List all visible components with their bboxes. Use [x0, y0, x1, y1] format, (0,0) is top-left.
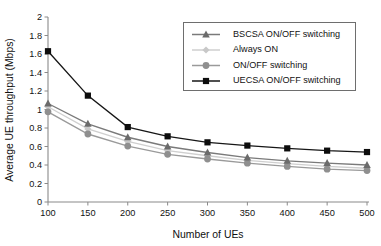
data-point-circle: [203, 62, 210, 69]
data-point-square: [364, 149, 370, 155]
data-point-circle: [284, 163, 291, 170]
data-point-square: [125, 124, 131, 130]
x-tick-label: 350: [240, 208, 255, 218]
x-tick-label: 500: [359, 208, 374, 218]
y-tick-label: 0.4: [29, 160, 42, 170]
legend-label: BSCSA ON/OFF switching: [233, 29, 340, 39]
y-tick-label: 1.6: [29, 49, 42, 59]
data-point-square: [165, 133, 171, 139]
data-point-square: [45, 48, 51, 54]
x-tick-label: 400: [280, 208, 295, 218]
y-tick-label: 1.2: [29, 86, 42, 96]
y-tick-label: 1.8: [29, 31, 42, 41]
data-point-square: [85, 93, 91, 99]
data-point-circle: [45, 108, 52, 115]
y-tick-label: 2: [37, 12, 42, 22]
chart-legend[interactable]: BSCSA ON/OFF switchingAlways ONON/OFF sw…: [184, 23, 356, 91]
y-tick-label: 0.8: [29, 123, 42, 133]
x-axis-title: Number of UEs: [172, 229, 243, 240]
data-point-circle: [164, 151, 171, 158]
data-point-circle: [364, 167, 371, 174]
legend-label: ON/OFF switching: [233, 60, 307, 70]
data-point-square: [204, 139, 210, 145]
data-point-circle: [324, 166, 331, 173]
y-tick-label: 1: [37, 105, 42, 115]
x-tick-label: 300: [200, 208, 215, 218]
data-point-square: [284, 145, 290, 151]
data-point-circle: [244, 160, 251, 167]
x-tick-label: 450: [319, 208, 334, 218]
legend-label: UECSA ON/OFF switching: [233, 75, 341, 85]
y-tick-label: 0.2: [29, 179, 42, 189]
data-point-circle: [124, 143, 131, 150]
x-tick-label: 100: [40, 208, 55, 218]
y-tick-label: 1.4: [29, 68, 42, 78]
data-point-square: [203, 78, 209, 84]
x-tick-label: 200: [120, 208, 135, 218]
x-tick-label: 250: [160, 208, 175, 218]
y-tick-label: 0.6: [29, 142, 42, 152]
y-tick-label: 0: [37, 197, 42, 207]
data-point-circle: [204, 156, 211, 163]
line-chart: 00.20.40.60.811.21.41.61.82 100150200250…: [0, 0, 381, 246]
y-axis-title: Average UE throughput (Mbps): [4, 38, 15, 182]
chart-figure: 00.20.40.60.811.21.41.61.82 100150200250…: [0, 0, 381, 246]
data-point-square: [324, 148, 330, 154]
x-tick-label: 150: [80, 208, 95, 218]
data-point-square: [244, 142, 250, 148]
data-point-circle: [84, 131, 91, 138]
legend-label: Always ON: [233, 44, 278, 54]
